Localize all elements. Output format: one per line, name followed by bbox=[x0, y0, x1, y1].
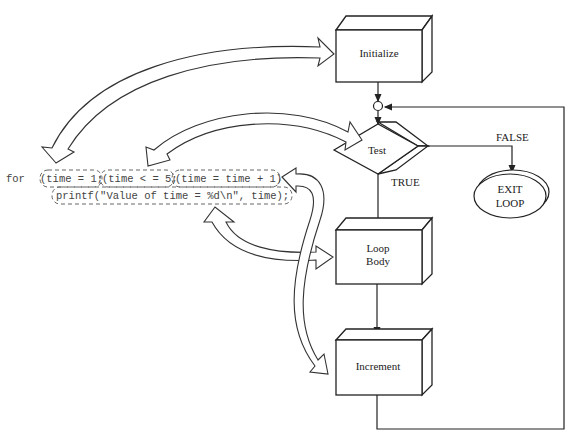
code-increment: (time = time + 1) bbox=[175, 173, 282, 185]
initialize-node: Initialize bbox=[336, 16, 432, 82]
initialize-label: Initialize bbox=[359, 47, 398, 59]
increment-label: Increment bbox=[356, 360, 401, 372]
code-body: printf("Value of time = %d\n", time); bbox=[56, 190, 289, 202]
init-mapping-arrow bbox=[42, 38, 334, 163]
for-loop-flowchart: Initialize Test FALSE EXIT LOOP TRUE Loo… bbox=[0, 0, 577, 443]
loop-body-label-line2: Body bbox=[366, 255, 390, 267]
false-edge bbox=[428, 146, 512, 172]
exit-loop-node: EXIT LOOP bbox=[474, 170, 549, 218]
junction-node bbox=[374, 102, 383, 111]
code-init: (time = 1; bbox=[40, 173, 103, 185]
loop-body-label-line1: Loop bbox=[366, 242, 390, 254]
true-label: TRUE bbox=[391, 176, 420, 188]
code-for-keyword: for bbox=[6, 173, 25, 185]
loop-body-node: Loop Body bbox=[336, 218, 432, 284]
exit-label-line1: EXIT bbox=[497, 183, 522, 195]
test-mapping-arrow bbox=[146, 113, 362, 166]
false-label: FALSE bbox=[496, 131, 529, 143]
test-label: Test bbox=[368, 144, 386, 156]
code-test: (time < = 5; bbox=[102, 173, 178, 185]
increment-node: Increment bbox=[336, 329, 432, 395]
exit-label-line2: LOOP bbox=[496, 197, 525, 209]
